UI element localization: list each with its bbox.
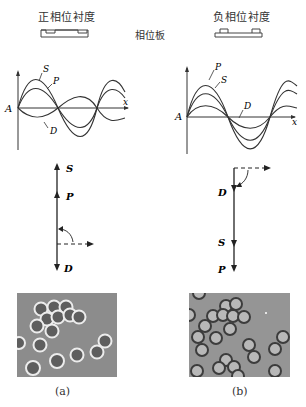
vector-label-p: P xyxy=(217,264,226,275)
curve-label-s: S xyxy=(221,75,227,85)
vector-label-s: S xyxy=(66,163,73,174)
curve-label-d: D xyxy=(243,101,251,111)
positive-wave-diagram: A x S P D xyxy=(0,50,153,160)
vector-label-s: S xyxy=(218,237,225,248)
curve-label-p: P xyxy=(214,62,222,72)
phase-plate-label: 相位板 xyxy=(135,27,165,42)
positive-contrast-micrograph xyxy=(17,293,117,377)
positive-phase-plate-icon xyxy=(40,28,96,38)
caption-a: (a) xyxy=(55,385,70,398)
vector-label-d: D xyxy=(63,263,73,274)
cells-image xyxy=(17,293,117,377)
vector-label-d: D xyxy=(217,187,227,198)
curve-label-s: S xyxy=(43,64,49,74)
origin-label: A xyxy=(4,103,12,114)
negative-contrast-title: 负相位衬度 xyxy=(213,8,271,24)
curve-label-p: P xyxy=(52,76,60,86)
axis-label: x xyxy=(292,117,297,127)
negative-vector-diagram: D S P xyxy=(180,150,300,280)
negative-contrast-micrograph xyxy=(189,293,290,377)
positive-contrast-title: 正相位衬度 xyxy=(38,8,96,24)
negative-wave-diagram: A x P S D xyxy=(153,50,306,160)
axis-label: x xyxy=(123,97,128,107)
negative-phase-plate-icon xyxy=(214,26,270,38)
cells-image xyxy=(189,293,290,377)
curve-label-d: D xyxy=(49,126,57,136)
caption-b: (b) xyxy=(232,385,248,398)
positive-vector-diagram: S P D xyxy=(20,150,140,280)
origin-label: A xyxy=(174,111,182,122)
vector-label-p: P xyxy=(65,191,74,202)
